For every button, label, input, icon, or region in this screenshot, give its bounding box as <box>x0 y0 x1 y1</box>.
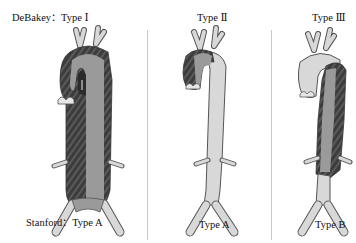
stanford-label: Stanford：Type A <box>26 218 103 229</box>
stanford-prefix: Stanford： <box>26 217 72 228</box>
debakey-type-3: Type Ⅲ <box>312 13 346 24</box>
aorta-type-1 <box>54 28 122 232</box>
aorta-type-3 <box>298 30 350 232</box>
stanford-type-1: Type A <box>72 217 102 228</box>
debakey-type-2: Type Ⅱ <box>197 13 228 24</box>
panel-divider-2 <box>271 30 272 240</box>
debakey-prefix: DeBakey： <box>12 12 61 23</box>
stanford-type-2: Type A <box>199 220 229 231</box>
debakey-label: DeBakey：Type Ⅰ <box>12 13 89 24</box>
stanford-type-3: Type B <box>315 220 345 231</box>
aorta-type-2 <box>183 28 234 232</box>
panel-divider-1 <box>147 30 148 240</box>
debakey-type-1: Type Ⅰ <box>61 12 89 23</box>
aortic-dissection-figure <box>0 0 356 243</box>
